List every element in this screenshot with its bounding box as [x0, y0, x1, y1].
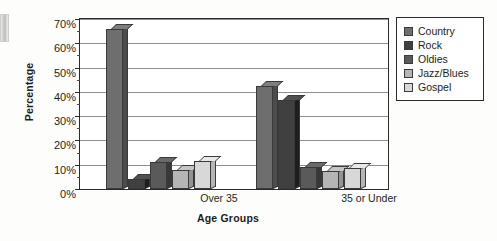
x-axis-category-labels: Over 3535 or Under: [79, 192, 391, 208]
bar: [344, 168, 361, 189]
bar: [194, 161, 211, 189]
legend-swatch-icon: [404, 83, 413, 92]
bar: [278, 100, 295, 189]
bar-side: [123, 26, 128, 189]
legend-item-label: Rock: [418, 40, 442, 51]
bar: [300, 167, 317, 189]
bar-top: [111, 24, 133, 29]
legend-item[interactable]: Oldies: [404, 52, 477, 66]
legend-item-label: Country: [418, 26, 455, 37]
bar-face: [256, 86, 273, 189]
legend-item[interactable]: Jazz/Blues: [404, 66, 477, 80]
legend-swatch-icon: [404, 55, 413, 64]
bar-face: [172, 170, 189, 189]
bar: [256, 86, 273, 189]
bar-top: [155, 157, 177, 162]
bar-chart: Percentage Age Groups 0%10%20%30%40%50%6…: [0, 0, 497, 241]
bar: [172, 170, 189, 189]
y-axis-tick-label: 60%: [54, 43, 76, 54]
legend-swatch-icon: [404, 41, 413, 50]
bar-side: [361, 166, 366, 189]
plot-area: [79, 18, 389, 190]
y-axis-tick-label: 30%: [54, 116, 76, 127]
legend-item[interactable]: Gospel: [404, 80, 477, 94]
bar-top: [349, 163, 371, 168]
bar-face: [194, 161, 211, 189]
x-axis-title: Age Groups: [118, 212, 338, 224]
y-axis-tick-label: 20%: [54, 140, 76, 151]
bar-side: [211, 159, 216, 189]
y-axis-tick-labels: 0%10%20%30%40%50%60%70%: [36, 12, 76, 194]
bar-top: [199, 156, 221, 161]
legend-swatch-icon: [404, 69, 413, 78]
bar: [150, 162, 167, 189]
scan-edge-artifact: [0, 14, 9, 42]
y-axis-tick-label: 0%: [60, 189, 76, 200]
bar-top: [305, 162, 327, 167]
bar-top: [283, 95, 305, 100]
bar-face: [278, 100, 295, 189]
legend: CountryRockOldiesJazz/BluesGospel: [396, 17, 484, 101]
legend-item-label: Gospel: [418, 82, 451, 93]
y-axis-title: Percentage: [23, 47, 35, 137]
bar: [128, 179, 145, 189]
legend-item-label: Jazz/Blues: [418, 68, 469, 79]
legend-item-label: Oldies: [418, 54, 448, 65]
legend-item[interactable]: Rock: [404, 38, 477, 52]
bar-face: [106, 29, 123, 189]
y-axis-tick-label: 40%: [54, 92, 76, 103]
x-axis-category-label: 35 or Under: [341, 192, 396, 204]
bar: [322, 171, 339, 189]
bar-face: [300, 167, 317, 189]
bar-series-container: [80, 19, 388, 189]
y-axis-tick-label: 10%: [54, 165, 76, 176]
y-axis-tick-label: 70%: [54, 19, 76, 30]
legend-item[interactable]: Country: [404, 24, 477, 38]
y-axis-major-tick: [75, 189, 80, 190]
legend-swatch-icon: [404, 27, 413, 36]
bar-face: [150, 162, 167, 189]
bar-top: [261, 81, 283, 86]
bar: [106, 29, 123, 189]
bar-face: [322, 171, 339, 189]
y-axis-tick-label: 50%: [54, 68, 76, 79]
x-axis-category-label: Over 35: [200, 192, 237, 204]
bar-face: [128, 179, 145, 189]
bar-face: [344, 168, 361, 189]
